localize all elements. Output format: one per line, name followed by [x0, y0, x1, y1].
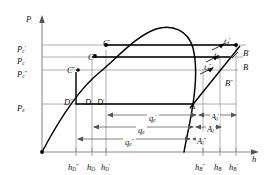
arrow-qe-prime-left	[107, 113, 113, 118]
enthalpy-tick-hd-prime: hD′	[101, 157, 110, 173]
state-point-d: D	[85, 92, 91, 108]
heat-span-qe: qe	[136, 120, 147, 136]
enthalpy-tick-hb-dprime: hB″	[195, 157, 205, 173]
pressure-tick-pe: Pe	[17, 98, 25, 114]
work-span-al: Al	[206, 119, 215, 135]
arrow-qe-dprime-left	[77, 137, 83, 142]
arrow-qe-dprime-right	[185, 137, 191, 142]
heat-span-qe-prime: qe′	[147, 108, 159, 124]
marker-origin	[40, 150, 44, 154]
arrow-al-prime-left	[198, 113, 204, 118]
enthalpy-tick-hb: hB	[214, 157, 221, 173]
state-point-c-prime: C′	[103, 33, 110, 49]
pressure-axis-arrow	[39, 15, 45, 23]
marker-b-prime	[234, 43, 238, 47]
temperature-label-td-prime: td′	[224, 31, 230, 47]
enthalpy-tick-hd: hD	[87, 157, 95, 173]
marker-c-dprime	[76, 68, 80, 72]
arrow-al-right	[216, 125, 222, 130]
arrow-al-left	[195, 125, 201, 130]
pressure-tick-pc-dprime: Pc″	[17, 64, 27, 80]
arrow-qe-right	[188, 125, 194, 130]
state-point-b: B	[243, 57, 248, 73]
state-point-d-prime: D′	[97, 92, 105, 108]
state-point-b-dprime: B″	[225, 73, 233, 89]
state-point-d-dprime: D″	[64, 92, 73, 108]
pressure-axis-label: P	[26, 15, 31, 24]
arrow-qe-left	[93, 125, 99, 130]
ph-diagram-figure: P h Pc′ Pc Pc″ Pe hD″ hD hD′ hB″ hB hB′ …	[0, 0, 269, 175]
arrow-qe-prime-right	[191, 113, 197, 118]
temperature-label-td-dprime: td″	[204, 57, 212, 73]
saturation-dome-curve	[42, 27, 196, 152]
state-point-c-dprime: C″	[67, 60, 75, 76]
state-point-a: A	[190, 96, 195, 112]
enthalpy-tick-hb-prime: hB′	[229, 157, 238, 173]
heat-span-qe-dprime: qe″	[123, 132, 136, 148]
enthalpy-tick-hd-dprime: hD″	[68, 157, 79, 173]
work-span-al-dprime: Al″	[196, 131, 207, 147]
temperature-label-td: td	[214, 45, 219, 61]
enthalpy-axis-label: h	[252, 155, 256, 164]
state-point-c: C	[88, 47, 94, 63]
